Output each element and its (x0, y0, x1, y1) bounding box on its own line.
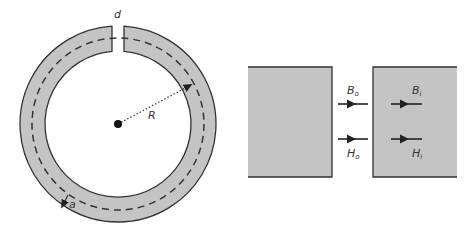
diagram-canvas: R d a Bo Bi Ho Hi (0, 0, 474, 232)
radius-label: R (148, 109, 156, 122)
B-outside-label: Bo (347, 84, 359, 98)
gap-label: d (114, 8, 122, 21)
H-outside-label: Ho (347, 147, 360, 161)
left-block (248, 67, 332, 177)
thickness-label: a (69, 198, 76, 211)
